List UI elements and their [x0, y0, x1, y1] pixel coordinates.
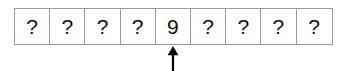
array-cell[interactable]: ? — [297, 9, 332, 44]
array-cell[interactable]: ? — [15, 9, 50, 44]
array-cell-highlighted[interactable]: 9 — [156, 9, 191, 44]
array-cell[interactable]: ? — [226, 9, 261, 44]
array-cell[interactable]: ? — [50, 9, 85, 44]
array-cell[interactable]: ? — [261, 9, 296, 44]
array-cell[interactable]: ? — [85, 9, 120, 44]
array-cell[interactable]: ? — [191, 9, 226, 44]
array-diagram: ? ? ? ? 9 ? ? ? ? — [0, 0, 353, 71]
array-cell-row: ? ? ? ? 9 ? ? ? ? — [14, 8, 333, 45]
arrow-up-icon — [166, 46, 180, 71]
array-cell[interactable]: ? — [121, 9, 156, 44]
